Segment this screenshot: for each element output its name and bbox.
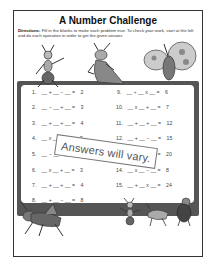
problem-2: 2. __ − __ + __ = 3 <box>32 104 83 110</box>
problem-expression: __ ÷ __ x __ = <box>126 89 159 95</box>
problem-expression: __ − __ + __ = <box>41 104 75 110</box>
problem-answer: 8 <box>81 197 84 203</box>
problem-answer: 3 <box>80 167 83 173</box>
grasshopper-icon <box>15 200 65 240</box>
problem-expression: __ x __ + __ = <box>127 104 160 110</box>
problem-answer: 2 <box>81 89 84 95</box>
problem-number: 6. <box>32 167 40 173</box>
directions-text: Fill in the blanks to make each problem … <box>18 28 193 38</box>
problem-expression: __ + __ + __ = <box>41 120 75 126</box>
problem-number: 11. <box>116 120 126 126</box>
problem-1: 1. __ + __ − __ = 2 <box>32 89 83 95</box>
directions-label: Directions: <box>18 28 40 33</box>
problem-6: 6. __ x __ + __ = 3 <box>32 167 83 173</box>
ant-icon <box>28 44 72 88</box>
problem-answer: 24 <box>166 182 172 188</box>
problem-number: 7. <box>32 182 40 188</box>
problem-expression: __ x __ − __ = <box>127 167 160 173</box>
problem-answer: 8 <box>166 167 169 173</box>
problem-expression: __ + __ + __ = <box>41 182 75 188</box>
problem-3: 3. __ + __ + __ = 4 <box>32 120 83 126</box>
problem-number: 1. <box>32 89 40 95</box>
problem-15: 15. __ + __ x __ = 24 <box>116 182 172 188</box>
problem-answer: 6 <box>165 89 168 95</box>
problem-12: 12. __ + __ − __ = 15 <box>116 135 172 141</box>
problem-11: 11. __ + __ + __ = 12 <box>116 120 172 126</box>
page-title: A Number Challenge <box>14 15 202 26</box>
beetle-icon <box>174 196 194 226</box>
problem-number: 5. <box>32 151 40 157</box>
problem-answer: 12 <box>167 120 173 126</box>
butterfly-icon <box>142 40 198 86</box>
problem-7: 7. __ + __ + __ = 4 <box>32 182 83 188</box>
problem-expression: __ + __ x __ = <box>127 182 160 188</box>
problem-answer: 3 <box>81 104 84 110</box>
problem-expression: __ + __ + __ = <box>127 120 161 126</box>
problem-number: 9. <box>117 89 125 95</box>
problem-expression: __ + __ − __ = <box>41 89 75 95</box>
problem-expression: __ x __ + __ = <box>41 167 74 173</box>
problem-number: 3. <box>32 120 40 126</box>
problem-14: 14. __ x __ − __ = 8 <box>116 167 169 173</box>
problem-answer: 15 <box>167 135 173 141</box>
problem-expression: __ + __ − __ = <box>127 135 161 141</box>
problem-answer: 4 <box>81 120 84 126</box>
problem-10: 10. __ x __ + __ = 7 <box>116 104 169 110</box>
cricket-icon <box>144 203 170 227</box>
problem-number: 4. <box>32 135 40 141</box>
problem-9: 9. __ ÷ __ x __ = 6 <box>117 89 168 95</box>
problem-answer: 7 <box>166 104 169 110</box>
problem-number: 10. <box>116 104 126 110</box>
problem-number: 15. <box>116 182 126 188</box>
ant-small-icon <box>118 198 142 228</box>
problem-number: 12. <box>116 135 126 141</box>
problem-number: 2. <box>32 104 40 110</box>
problem-number: 14. <box>116 167 126 173</box>
problem-answer: 4 <box>81 182 84 188</box>
directions: Directions: Fill in the blanks to make e… <box>18 28 200 39</box>
problem-answer: 20 <box>166 151 172 157</box>
mantis-icon <box>84 42 136 86</box>
